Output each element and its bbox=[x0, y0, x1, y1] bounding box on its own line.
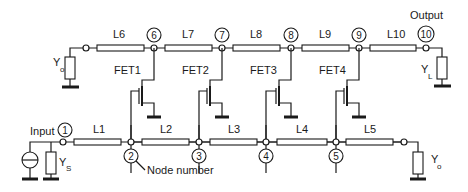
node-number-4: 4 bbox=[259, 149, 273, 163]
junction-node-3 bbox=[196, 139, 202, 145]
label-L4: L4 bbox=[296, 123, 308, 135]
svg-text:5: 5 bbox=[333, 151, 339, 162]
source-admittance bbox=[46, 152, 56, 174]
node-number-5: 5 bbox=[329, 149, 343, 163]
node-number-1: 1 bbox=[58, 123, 72, 137]
gate-line-layer: Y S Input 1 L1 L2 L3 L4 L5 2 3 4 5 Node … bbox=[0, 0, 468, 192]
label-L1: L1 bbox=[93, 123, 105, 135]
label-L5: L5 bbox=[364, 123, 376, 135]
svg-text:1: 1 bbox=[62, 125, 68, 136]
callout-leader bbox=[136, 161, 145, 170]
junction-node-2 bbox=[128, 139, 134, 145]
input-label: Input bbox=[30, 125, 54, 137]
node-number-3: 3 bbox=[192, 149, 206, 163]
node-number-callout: Node number bbox=[147, 164, 214, 176]
junction-node-4 bbox=[263, 139, 269, 145]
tline-L1 bbox=[74, 139, 121, 145]
svg-text:o: o bbox=[437, 162, 442, 171]
tline-L5 bbox=[346, 139, 393, 145]
tline-L4 bbox=[277, 139, 327, 145]
svg-text:2: 2 bbox=[128, 151, 134, 162]
tline-L3 bbox=[210, 139, 257, 145]
gate-termination-admittance: Y o bbox=[407, 142, 442, 179]
terminal-icon bbox=[401, 139, 407, 145]
svg-text:S: S bbox=[66, 164, 71, 173]
junction-node-5 bbox=[333, 139, 339, 145]
input-terminal bbox=[60, 139, 66, 145]
tline-L2 bbox=[142, 139, 189, 145]
node-number-2: 2 bbox=[124, 149, 138, 163]
svg-text:3: 3 bbox=[196, 151, 202, 162]
label-L2: L2 bbox=[160, 123, 172, 135]
svg-text:4: 4 bbox=[263, 151, 269, 162]
label-L3: L3 bbox=[228, 123, 240, 135]
